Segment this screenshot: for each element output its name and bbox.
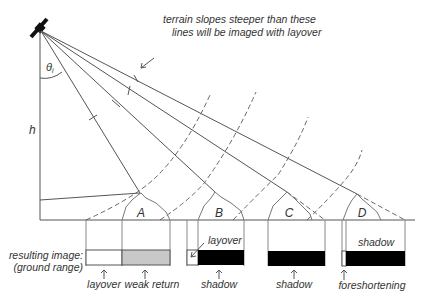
shadow-projection-lines xyxy=(287,192,405,220)
height-symbol: h xyxy=(29,123,36,137)
image-row-label-2: (ground range) xyxy=(14,261,83,273)
hill-label-b: B xyxy=(215,206,223,220)
d-shadow-label: shadow xyxy=(358,236,396,248)
radar-rays xyxy=(40,31,357,200)
bottom-label-shadow-b: shadow xyxy=(201,278,239,290)
bottom-label-weak-return: weak return xyxy=(125,278,180,290)
strip-b-shadow xyxy=(198,250,244,265)
strip-a-weak-return xyxy=(122,250,170,265)
incidence-angle-symbol: θi xyxy=(46,61,54,74)
strip-d-foreshortening xyxy=(342,251,346,266)
annotation-line-1: terrain slopes steeper than these xyxy=(163,13,316,25)
resulting-image-strips xyxy=(86,250,405,266)
hill-label-d: D xyxy=(358,206,367,220)
sar-geometry-diagram: A B C D resulting image: (ground range) … xyxy=(0,0,434,306)
hill-label-a: A xyxy=(136,206,145,220)
bottom-label-foreshortening: foreshortening xyxy=(338,279,405,291)
b-layover-label: layover xyxy=(208,234,242,246)
strip-d-shadow xyxy=(346,251,405,266)
strip-b-layover xyxy=(187,250,198,265)
annotation-line-2: lines will be imaged with layover xyxy=(172,26,322,38)
bottom-label-layover: layover xyxy=(87,278,121,290)
bottom-label-shadow-c: shadow xyxy=(276,278,314,290)
hill-label-c: C xyxy=(285,206,294,220)
strip-a-layover xyxy=(86,250,122,265)
annotation-arrow xyxy=(141,58,154,68)
strip-c-shadow xyxy=(268,251,325,266)
image-row-label-1: resulting image: xyxy=(9,249,83,261)
hills xyxy=(122,192,381,220)
